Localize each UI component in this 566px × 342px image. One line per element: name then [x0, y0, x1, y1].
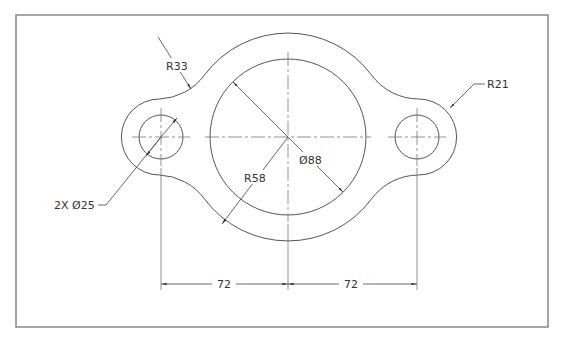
d25-leader — [98, 118, 177, 205]
centerlines — [132, 52, 446, 222]
d25-label: 2X Ø25 — [54, 199, 95, 212]
d88-label: Ø88 — [299, 154, 322, 167]
r58-label: R58 — [244, 172, 266, 185]
r33-label: R33 — [166, 60, 188, 73]
dim-72-right: 72 — [344, 278, 358, 291]
drawing-sheet: 72 72 R33 R21 Ø88 R58 2X Ø25 — [0, 0, 566, 342]
sheet-border — [16, 15, 548, 327]
extension-lines — [161, 168, 417, 290]
dim-72-left: 72 — [217, 278, 231, 291]
r21-leader — [450, 84, 485, 108]
r21-label: R21 — [487, 78, 509, 91]
